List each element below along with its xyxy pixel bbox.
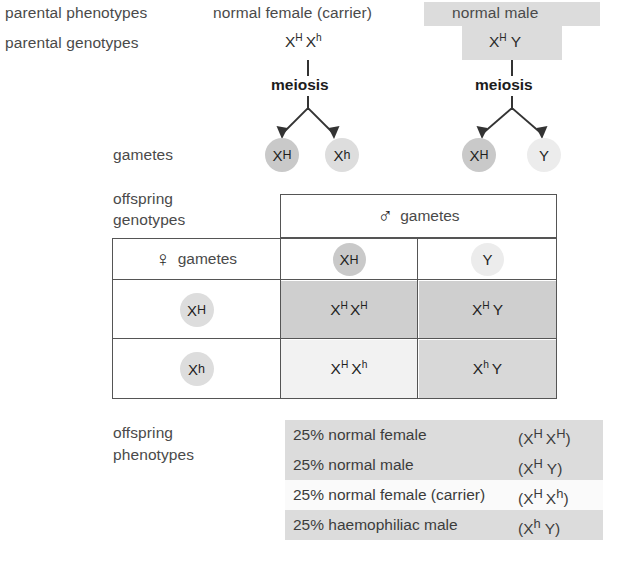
punnett-row-header-1: XH xyxy=(113,281,280,339)
p4-s1: h xyxy=(534,516,541,531)
r1c2-a1: X xyxy=(472,301,482,318)
r1c1-s2: H xyxy=(360,300,367,311)
maternal-gamete-1-base: X xyxy=(272,147,282,164)
punnett-cell-r2c1-genotype: XHXh xyxy=(331,360,368,378)
punnett-cell-r2c2: XhY xyxy=(419,340,556,398)
punnett-col-gamete-1-sup: H xyxy=(349,253,358,267)
r2c1-a2: X xyxy=(351,360,361,377)
label-offspring-phenotypes-line2: phenotypes xyxy=(113,446,194,464)
p2-a1: X xyxy=(523,460,533,477)
punnett-cell-r1c2-genotype: XHY xyxy=(472,301,503,319)
father-allele-1: X xyxy=(489,33,499,50)
maternal-gamete-1: XH xyxy=(265,138,299,172)
punnett-horizontal-divider-2 xyxy=(112,338,557,339)
label-parental-genotypes: parental genotypes xyxy=(5,34,139,52)
r1c2-a2: Y xyxy=(493,301,503,318)
punnett-col-header-1: XH xyxy=(281,239,417,280)
maternal-gamete-2-base: X xyxy=(334,147,344,164)
p4-close: ) xyxy=(555,520,560,537)
punnett-horizontal-divider-1 xyxy=(112,279,557,280)
label-offspring-genotypes-line2: genotypes xyxy=(113,211,185,229)
paternal-gamete-1: XH xyxy=(462,138,496,172)
mother-allele-1-sup: H xyxy=(295,32,302,43)
punnett-row-gamete-2-base: X xyxy=(188,361,198,378)
punnett-cell-r1c1-genotype: XHXH xyxy=(330,301,367,319)
mother-allele-2: X xyxy=(306,33,316,50)
genetics-punnett-diagram: parental phenotypes normal female (carri… xyxy=(0,0,623,564)
punnett-col-gamete-2: Y xyxy=(471,243,504,276)
punnett-row-gamete-2-sup: h xyxy=(198,362,205,376)
phenotype-row-3-genotype: (XHXh) xyxy=(518,486,569,508)
maternal-gamete-2-sup: h xyxy=(344,148,351,162)
r1c1-a2: X xyxy=(350,301,360,318)
punnett-row-gamete-1-base: X xyxy=(187,302,197,319)
punnett-male-header-label: ♂ gametes xyxy=(280,194,557,238)
phenotype-row-1-text: 25% normal female xyxy=(293,426,427,444)
punnett-cell-r1c2: XHY xyxy=(419,281,556,339)
punnett-col-gamete-2-base: Y xyxy=(482,251,492,268)
mother-meiosis-fork xyxy=(268,108,348,142)
r1c2-s1: H xyxy=(482,300,489,311)
label-offspring-phenotypes-line1: offspring xyxy=(113,424,173,442)
punnett-col-gamete-1: XH xyxy=(333,243,366,276)
p3-close: ) xyxy=(563,490,568,507)
p3-a2: X xyxy=(546,490,556,507)
mother-meiosis-label: meiosis xyxy=(271,76,329,94)
father-genotype: XHY xyxy=(489,33,521,51)
r2c2-a2: Y xyxy=(492,360,502,377)
r1c1-a1: X xyxy=(330,301,340,318)
punnett-vertical-divider-1 xyxy=(280,238,281,399)
mother-genotype: XHXh xyxy=(285,33,322,51)
p3-s1: H xyxy=(534,486,543,501)
paternal-gamete-2: Y xyxy=(527,138,561,172)
maternal-gamete-1-sup: H xyxy=(282,148,291,162)
p1-s2: H xyxy=(556,426,565,441)
punnett-cell-r1c1: XHXH xyxy=(281,281,417,339)
label-parental-phenotypes: parental phenotypes xyxy=(5,4,147,22)
p4-a1: X xyxy=(523,520,533,537)
male-symbol: ♂ xyxy=(377,205,393,226)
r2c1-s1: H xyxy=(341,359,348,370)
p3-a1: X xyxy=(523,490,533,507)
paternal-gamete-1-sup: H xyxy=(479,148,488,162)
punnett-cell-r2c2-genotype: XhY xyxy=(473,360,502,378)
mother-phenotype: normal female (carrier) xyxy=(213,4,372,22)
p2-s1: H xyxy=(534,456,543,471)
phenotype-row-4-text: 25% haemophiliac male xyxy=(293,516,458,534)
male-header-text: gametes xyxy=(400,207,459,225)
paternal-gamete-1-base: X xyxy=(469,147,479,164)
phenotype-row-2-text: 25% normal male xyxy=(293,456,414,474)
punnett-female-header-label: ♀ gametes xyxy=(112,238,280,280)
maternal-gamete-2: Xh xyxy=(325,138,359,172)
mother-allele-1: X xyxy=(285,33,295,50)
p2-a2: Y xyxy=(547,460,557,477)
punnett-cell-r2c1: XHXh xyxy=(281,340,417,398)
p1-a1: X xyxy=(523,430,533,447)
phenotype-row-1-genotype: (XHXH) xyxy=(518,426,571,448)
father-allele-1-sup: H xyxy=(499,32,506,43)
punnett-vertical-divider-2 xyxy=(417,238,418,399)
mother-meiosis-line-top xyxy=(307,60,309,76)
phenotype-row-4-genotype: (XhY) xyxy=(518,516,560,538)
r2c2-s1: h xyxy=(483,359,489,370)
r2c2-a1: X xyxy=(473,360,483,377)
punnett-row-gamete-2: Xh xyxy=(180,352,214,386)
father-meiosis-fork xyxy=(466,108,558,142)
mother-allele-2-sup: h xyxy=(316,32,322,43)
label-gametes: gametes xyxy=(113,146,173,164)
phenotype-row-2-genotype: (XHY) xyxy=(518,456,562,478)
p1-close: ) xyxy=(566,430,571,447)
punnett-row-gamete-1: XH xyxy=(180,293,214,327)
father-meiosis-line-top xyxy=(511,60,513,76)
punnett-row-header-2: Xh xyxy=(113,340,280,398)
phenotype-row-3-text: 25% normal female (carrier) xyxy=(293,486,485,504)
female-header-text: gametes xyxy=(178,250,237,268)
punnett-col-header-2: Y xyxy=(419,239,556,280)
father-meiosis-label: meiosis xyxy=(475,76,533,94)
punnett-row-gamete-1-sup: H xyxy=(197,303,206,317)
r2c1-a1: X xyxy=(331,360,341,377)
p4-a2: Y xyxy=(545,520,555,537)
father-allele-2: Y xyxy=(511,33,521,50)
r2c1-s2: h xyxy=(362,359,368,370)
paternal-gamete-2-base: Y xyxy=(539,147,549,164)
